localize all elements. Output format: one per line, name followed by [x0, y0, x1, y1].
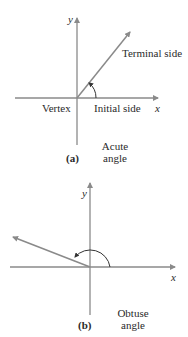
panel-a-terminal-ray — [77, 32, 130, 98]
panel-b-y-axis-label: y — [82, 187, 87, 199]
panel-a-diagram — [15, 18, 158, 145]
panel-b-terminal-ray — [13, 237, 90, 267]
panel-a-tag: (a) — [66, 152, 79, 164]
panel-a-initial-side-label: Initial side — [94, 102, 141, 114]
panel-b-angle-arc — [75, 250, 110, 267]
panel-a-terminal-side-label: Terminal side — [122, 47, 182, 59]
panel-b-caption-line1: Obtuse — [114, 307, 152, 319]
panel-b-diagram — [10, 183, 175, 315]
panel-b-x-axis-label: x — [171, 271, 176, 283]
panel-a-vertex-label: Vertex — [42, 102, 71, 114]
panel-b-caption: Obtuse angle — [114, 307, 152, 331]
panel-a-caption-line1: Acute — [100, 140, 130, 152]
panel-a-x-axis-label: x — [155, 102, 160, 114]
panel-b-caption-line2: angle — [114, 319, 152, 331]
panel-a-caption: Acute angle — [100, 140, 130, 164]
panel-a-y-axis-label: y — [68, 13, 73, 25]
panel-b-tag: (b) — [78, 319, 91, 331]
panel-a-angle-arc — [89, 83, 96, 98]
panel-a-caption-line2: angle — [100, 152, 130, 164]
